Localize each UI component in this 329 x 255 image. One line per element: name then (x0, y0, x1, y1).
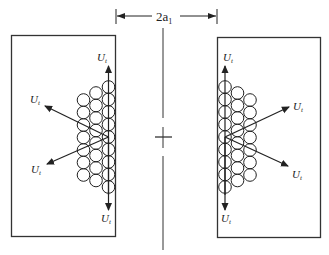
label-ut: Ut (101, 212, 112, 226)
right-sphere-cluster (219, 81, 257, 194)
center-axis (155, 28, 172, 250)
label-ut: Ut (292, 168, 303, 182)
label-ut: Ut (30, 93, 41, 107)
left-sphere-cluster (77, 81, 115, 194)
label-ut: Ut (97, 51, 108, 65)
label-ut: Ut (223, 51, 234, 65)
diagram-canvas: 2a1 (0, 0, 329, 255)
label-ut: Ut (293, 100, 304, 114)
vector-labels: Ut Ut Ut Ut Ut Ut Ut Ut (30, 51, 304, 226)
label-ut: Ut (221, 212, 232, 226)
label-ut: Ut (31, 163, 42, 177)
dimension-label: 2a1 (156, 9, 172, 26)
right-plate (218, 38, 321, 238)
